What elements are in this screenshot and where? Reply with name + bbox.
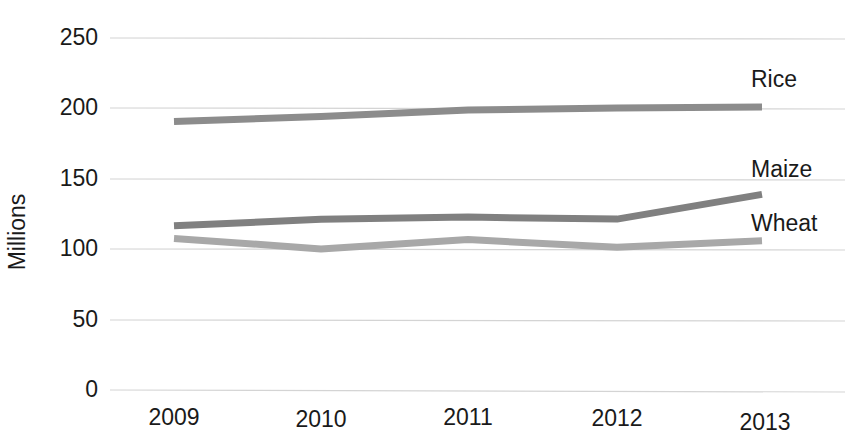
ytick-label-250: 250 (60, 24, 98, 50)
x-axis-tick-labels: 2009 2010 2011 2012 2013 (148, 404, 790, 435)
series-labels: Rice Maize Wheat (751, 66, 818, 236)
gridline-50 (110, 320, 845, 321)
xtick-label-2011: 2011 (443, 404, 492, 430)
gridline-150 (110, 179, 845, 180)
series-label-maize: Maize (751, 156, 812, 182)
y-axis-title: Millions (4, 194, 30, 271)
xtick-label-2009: 2009 (148, 404, 199, 430)
series-line-maize (174, 194, 762, 225)
gridline-250 (110, 38, 845, 39)
xtick-label-2013: 2013 (739, 409, 790, 435)
gridline-100 (110, 249, 845, 250)
series-lines (174, 107, 762, 249)
line-chart: 250 200 150 100 50 0 Millions 2009 2010 … (0, 0, 849, 448)
series-line-rice (174, 107, 762, 122)
y-axis-title-group: Millions (4, 194, 30, 271)
xtick-label-2010: 2010 (295, 406, 346, 432)
ytick-label-100: 100 (60, 235, 98, 261)
series-line-wheat (174, 238, 762, 249)
ytick-label-150: 150 (60, 165, 98, 191)
ytick-label-50: 50 (72, 306, 98, 332)
chart-canvas: 250 200 150 100 50 0 Millions 2009 2010 … (0, 0, 849, 448)
series-label-rice: Rice (751, 66, 797, 92)
series-label-wheat: Wheat (751, 210, 818, 236)
xtick-label-2012: 2012 (591, 405, 642, 431)
ytick-label-200: 200 (60, 94, 98, 120)
ytick-label-0: 0 (85, 376, 98, 402)
y-axis-tick-labels: 250 200 150 100 50 0 (60, 24, 98, 402)
gridline-0 (110, 390, 845, 392)
